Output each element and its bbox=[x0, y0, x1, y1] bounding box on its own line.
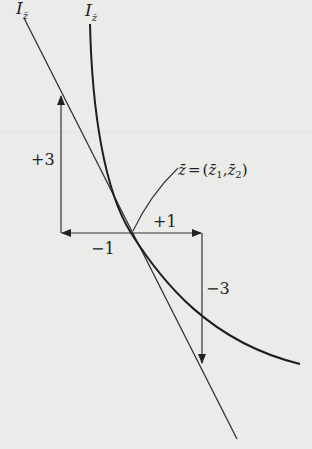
tangent-line-label: Iz̄ bbox=[15, 0, 29, 21]
diagram-canvas: Iz̄ Iz̄ z̄=(z̄1,z̄2) +3 −1 +1 −3 bbox=[0, 0, 312, 449]
curve-label: Iz̄ bbox=[84, 0, 98, 23]
indifference-curve bbox=[90, 24, 300, 364]
right-arrow-label: +1 bbox=[153, 212, 177, 231]
down-arrow-label: −3 bbox=[206, 279, 230, 298]
tangent-line bbox=[24, 18, 237, 439]
point-label: z̄=(z̄1,z̄2) bbox=[177, 161, 248, 180]
up-arrow-label: +3 bbox=[31, 150, 55, 169]
left-arrow-label: −1 bbox=[91, 239, 115, 258]
